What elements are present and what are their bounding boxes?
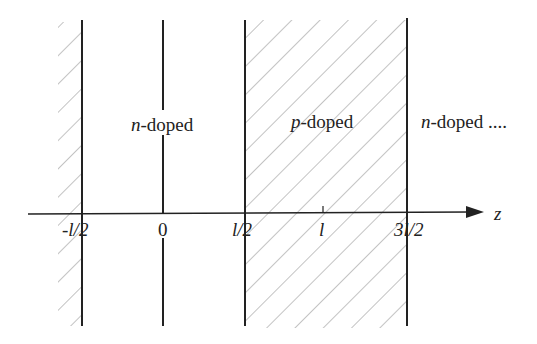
tick-label-three-half-l: 3l/2 [393,219,424,240]
region-label-n-doped-continued: n-doped .... [421,111,507,132]
p-region-hatch [245,20,407,328]
region-label-p-doped: p-doped [289,111,354,132]
tick-label-minus-half-l: -l/2 [62,219,89,240]
region-label-n-doped: n-doped [131,114,194,135]
tick-label-half-l: l/2 [232,219,253,240]
pn-junction-diagram: z n-doped p-doped n-doped .... -l/2 0 l/… [0,0,537,344]
left-hatch-strip [58,22,82,326]
tick-label-l: l [319,219,324,240]
tick-label-zero: 0 [158,219,168,240]
z-axis-arrowhead [466,206,484,218]
axis-label-z: z [493,203,502,224]
